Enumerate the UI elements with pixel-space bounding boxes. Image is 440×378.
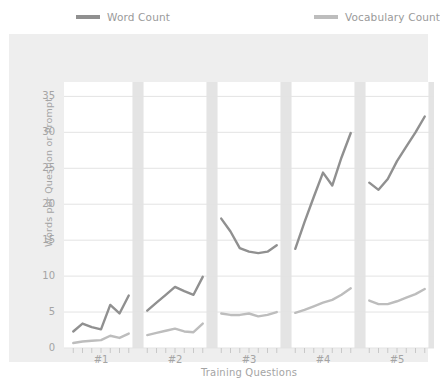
series-line — [295, 133, 351, 249]
series-line — [369, 289, 425, 304]
y-axis-title: Words per Question or Prompt — [43, 73, 54, 273]
y-axis-tick-label: 0 — [49, 343, 55, 353]
x-axis-tick-label: #4 — [316, 354, 331, 365]
legend-label-vocabulary-count: Vocabulary Count — [345, 11, 440, 23]
series-line — [221, 219, 277, 254]
x-axis-title: Training Questions — [64, 367, 434, 378]
legend-label-word-count: Word Count — [107, 11, 170, 23]
series-line — [369, 117, 425, 190]
x-axis-tick-label: #5 — [390, 354, 405, 365]
separator-band — [428, 82, 434, 348]
series-line — [295, 288, 351, 312]
legend-item-vocabulary-count[interactable]: Vocabulary Count — [314, 9, 440, 25]
series-line — [221, 312, 277, 316]
line-swatch-icon — [76, 15, 100, 19]
y-axis-tick-label: 5 — [49, 307, 55, 317]
separator-band — [206, 82, 217, 348]
plot-svg — [64, 82, 434, 354]
chart-panel: 05101520253035 Words per Question or Pro… — [9, 34, 428, 362]
x-axis-tick-label: #2 — [168, 354, 183, 365]
plot-area — [64, 82, 434, 348]
y-axis-tick-labels: 05101520253035 — [18, 82, 60, 348]
series-line — [147, 324, 203, 336]
series-line — [73, 334, 129, 343]
separator-band — [132, 82, 143, 348]
chart-legend: Word Count Vocabulary Count — [0, 0, 437, 34]
y-axis-tick-label: 10 — [42, 271, 55, 281]
x-axis-tick-label: #3 — [242, 354, 257, 365]
series-line — [147, 277, 203, 311]
x-axis-tick-label: #1 — [94, 354, 109, 365]
separator-band — [354, 82, 365, 348]
legend-item-word-count[interactable]: Word Count — [76, 9, 170, 25]
x-axis-tick-labels: #1#2#3#4#5 — [64, 354, 434, 368]
series-line — [73, 296, 129, 332]
separator-band — [280, 82, 291, 348]
line-swatch-icon — [314, 15, 338, 19]
